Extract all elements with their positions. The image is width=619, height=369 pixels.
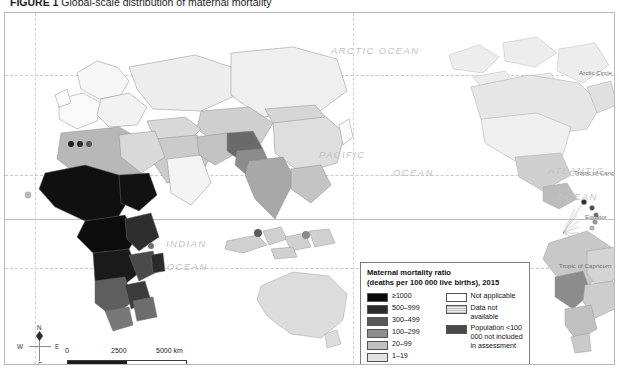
legend-item: 300–499 <box>367 316 437 326</box>
scale-bar-track <box>67 360 187 365</box>
scale-label-middle: 2500 <box>111 347 127 354</box>
legend-swatch-population-excluded <box>446 325 467 334</box>
figure-root: FIGURE 1 Global-scale distribution of ma… <box>0 0 619 369</box>
compass-label-east: E <box>55 343 59 350</box>
island-dot-d <box>23 189 35 201</box>
island-dot-c <box>301 229 313 241</box>
label-tropic-of-capricorn: Tropic of Capricorn <box>559 262 611 269</box>
legend-label-not-applicable: Not applicable <box>471 292 516 301</box>
legend-swatch-1-19 <box>367 353 388 362</box>
legend-item: ≥1000 <box>367 292 437 302</box>
legend-swatch-20-99 <box>367 341 388 350</box>
legend-item: Not applicable <box>446 292 523 302</box>
compass-label-south: S <box>38 361 42 365</box>
island-dot-e <box>67 139 95 149</box>
landmass-indonesia <box>223 223 343 273</box>
label-arctic-circle: Arctic Circle <box>579 69 612 76</box>
ocean-label-indian: INDIAN <box>166 238 207 249</box>
figure-caption: FIGURE 1 Global-scale distribution of ma… <box>10 0 271 10</box>
figure-number: FIGURE 1 <box>10 0 58 8</box>
legend-title-line1: Maternal mortality ratio <box>367 268 523 278</box>
legend-swatch-300-499 <box>367 317 388 326</box>
legend-title: Maternal mortality ratio (deaths per 100… <box>367 268 523 288</box>
ocean-label-atlantic-2: OCEAN <box>557 191 598 202</box>
legend-swatch-data-not-available <box>446 305 467 314</box>
scale-label-end: 5000 km <box>156 347 183 354</box>
legend-item: Data not available <box>446 304 523 322</box>
legend-label-20-99: 20–99 <box>392 340 412 349</box>
figure-caption-text: Global-scale distribution of maternal mo… <box>61 0 271 8</box>
legend-label-population-excluded: Population <100 000 not included in asse… <box>471 324 523 351</box>
ocean-label-pacific-2: OCEAN <box>393 167 434 178</box>
ocean-label-indian-2: OCEAN <box>167 261 208 272</box>
scale-label-start: 0 <box>65 347 69 354</box>
legend-swatch-100-299 <box>367 329 388 338</box>
landmass-south-america <box>535 225 615 355</box>
legend-item: 20–99 <box>367 340 437 350</box>
compass-north-arrow-icon <box>36 331 43 341</box>
label-tropic-of-cancer: Tropic of Cancer <box>574 169 615 176</box>
ocean-label-arctic: ARCTIC OCEAN <box>331 45 420 56</box>
legend-swatch-1000-plus <box>367 293 388 302</box>
island-dot-a <box>147 241 157 251</box>
legend-item: Population <100 000 not included in asse… <box>446 324 523 351</box>
label-equator: Equator <box>585 213 607 220</box>
compass-needle-horizontal <box>29 346 51 347</box>
scale-bar: 0 2500 5000 km <box>67 348 187 365</box>
legend-label-300-499: 300–499 <box>392 316 420 325</box>
legend-title-line2: (deaths per 100 000 live births), 2015 <box>367 278 523 288</box>
legend-label-data-not-available: Data not available <box>471 304 523 322</box>
map-legend: Maternal mortality ratio (deaths per 100… <box>360 262 530 365</box>
map-canvas: ARCTIC OCEAN PACIFIC OCEAN INDIAN OCEAN … <box>4 12 615 365</box>
landmass-australia <box>251 268 361 353</box>
legend-swatch-not-applicable <box>446 293 467 302</box>
legend-item: 500–999 <box>367 304 437 314</box>
legend-item: 100–299 <box>367 328 437 338</box>
compass-rose: N S W E <box>17 325 63 365</box>
legend-label-1-19: 1–19 <box>392 352 408 361</box>
legend-column-other: Not applicable Data not available Popula… <box>446 292 523 362</box>
compass-label-north: N <box>37 324 42 331</box>
scale-bar-segment-light <box>127 361 186 365</box>
legend-column-classes: ≥1000 500–999 300–499 100–299 <box>367 292 437 362</box>
island-dot-b <box>253 227 265 239</box>
ocean-label-pacific: PACIFIC <box>319 149 366 160</box>
legend-item: 1–19 <box>367 352 437 362</box>
legend-label-1000-plus: ≥1000 <box>392 292 412 301</box>
legend-label-500-999: 500–999 <box>392 304 420 313</box>
compass-label-west: W <box>17 343 23 350</box>
legend-swatch-500-999 <box>367 305 388 314</box>
legend-label-100-299: 100–299 <box>392 328 420 337</box>
scale-bar-segment-dark <box>68 361 127 365</box>
